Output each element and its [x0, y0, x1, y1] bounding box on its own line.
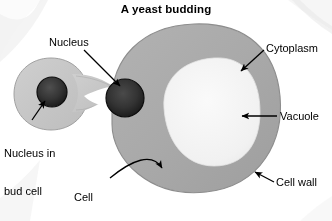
- leader-cell-wall: [255, 172, 274, 182]
- label-nucleus-in-bud-cell: Nucleus in bud cell: [4, 122, 55, 221]
- label-cell-wall: Cell wall: [276, 176, 317, 189]
- page-title: A yeast budding: [0, 3, 332, 15]
- label-cytoplasm: Cytoplasm: [266, 42, 318, 55]
- label-vacuole: Vacuole: [280, 110, 319, 123]
- nucleus: [106, 79, 144, 117]
- nucleus-in-bud-cell: [37, 77, 67, 107]
- label-nucleus-in-bud-cell-line1: Nucleus in: [4, 147, 55, 160]
- label-nucleus: Nucleus: [49, 36, 89, 49]
- label-nucleus-in-bud-cell-line2: bud cell: [4, 185, 55, 198]
- yeast-budding-diagram: A yeast budding Nucleus Cytoplasm Vacuol…: [0, 0, 332, 221]
- label-cell-membrane-line1: Cell: [74, 191, 127, 204]
- label-cell-membrane: Cell membrane: [74, 166, 127, 221]
